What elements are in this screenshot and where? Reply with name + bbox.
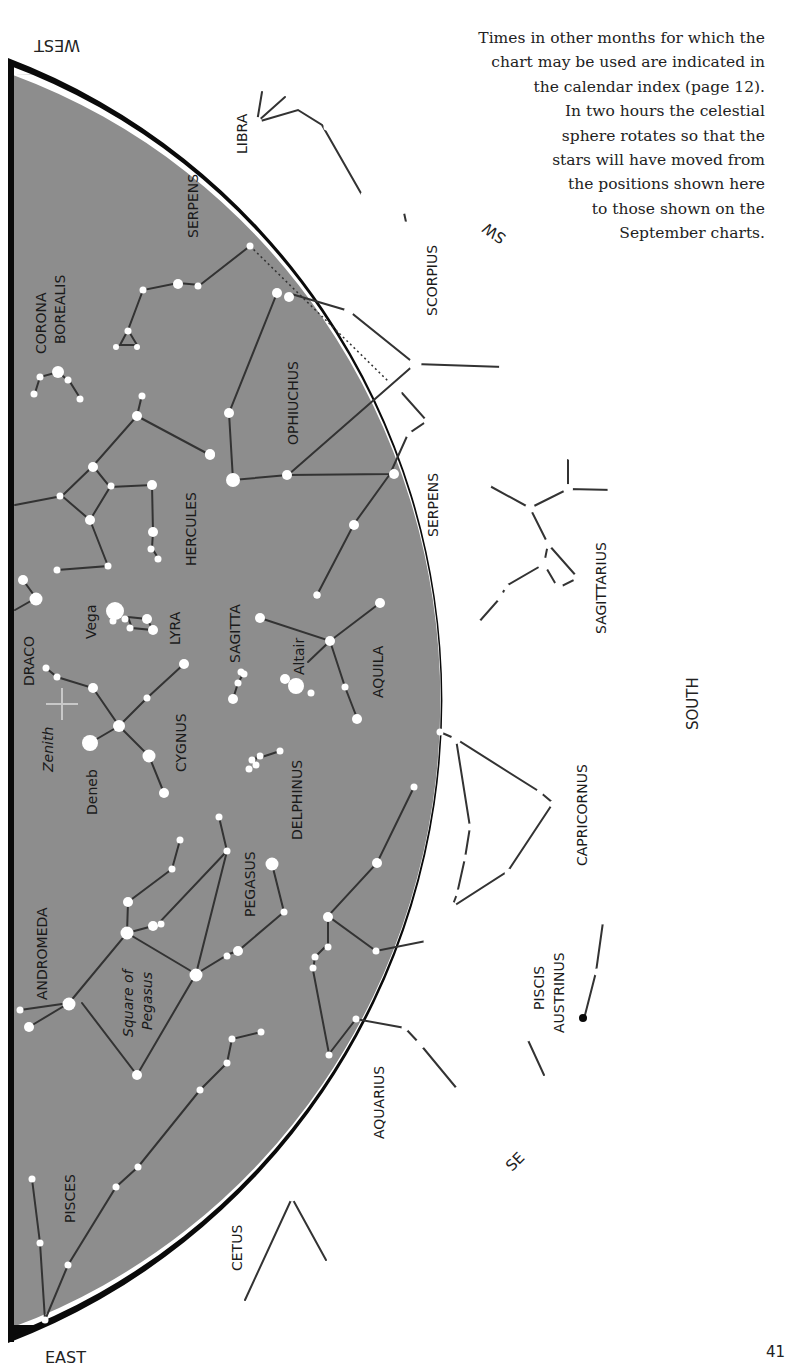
label-altair: Altair (291, 638, 307, 675)
label-aquarius: AQUARIUS (371, 1066, 387, 1139)
label-ophiuchus: OPHIUCHUS (285, 361, 301, 445)
label-deneb: Deneb (84, 769, 100, 815)
label-scorpius: SCORPIUS (424, 245, 440, 316)
label-serpens-cauda: SERPENS (425, 473, 441, 537)
label-south: SOUTH (684, 677, 702, 730)
label-cygnus: CYGNUS (173, 713, 189, 772)
label-cetus: CETUS (229, 1225, 245, 1271)
label-pisces: PISCES (62, 1174, 78, 1223)
label-sagitta: SAGITTA (227, 604, 243, 663)
label-capricornus: CAPRICORNUS (574, 764, 590, 866)
page-number: 41 (766, 1343, 785, 1361)
label-zenith: Zenith (40, 727, 56, 773)
label-sw: SW (479, 219, 509, 248)
label-borealis: BOREALIS (52, 275, 68, 344)
label-west: WEST (34, 36, 80, 55)
piscis-austrinus-dark-marker (579, 1014, 587, 1022)
label-square-of: Square of (120, 967, 136, 1037)
label-libra: LIBRA (234, 113, 250, 154)
label-piscis: PISCIS (531, 966, 547, 1010)
label-hercules: HERCULES (183, 492, 199, 566)
label-aquila: AQUILA (370, 645, 386, 698)
star-chart: LIBRA SERPENS CORONA BOREALIS SCORPIUS O… (0, 0, 799, 1367)
label-east: EAST (45, 1348, 86, 1367)
label-se: SE (502, 1149, 528, 1175)
label-pegasus: PEGASUS (242, 851, 258, 917)
label-draco: DRACO (21, 636, 37, 686)
label-lyra: LYRA (167, 611, 183, 645)
label-andromeda: ANDROMEDA (34, 907, 50, 1000)
label-austrinus: AUSTRINUS (551, 952, 567, 1033)
label-pegasus-star: Pegasus (139, 972, 155, 1030)
label-sagittarius: SAGITTARIUS (593, 542, 609, 634)
label-delphinus: DELPHINUS (289, 760, 305, 840)
label-serpens-caput: SERPENS (185, 174, 201, 238)
label-vega: Vega (83, 604, 99, 639)
dome-left-edge (8, 62, 14, 1342)
label-corona: CORONA (33, 292, 49, 354)
